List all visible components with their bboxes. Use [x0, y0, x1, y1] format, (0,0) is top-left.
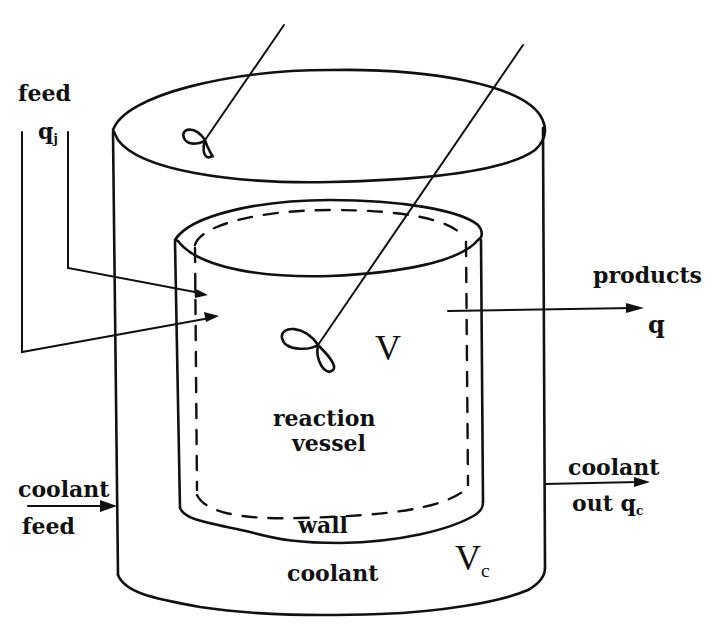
- vessel-wall-dashed-line: [195, 210, 468, 518]
- feed-inlet-arrows: [22, 132, 219, 352]
- coolant-out-label-line2: out qc: [572, 492, 643, 517]
- feed-flow-label: qj: [38, 120, 58, 145]
- coolant-out-flow-symbol: q: [621, 490, 636, 516]
- feed-flow-symbol: q: [38, 118, 53, 144]
- reactor-stirrer-icon: [282, 45, 523, 372]
- products-outlet-arrow: [448, 303, 644, 313]
- products-label: products: [593, 264, 702, 286]
- jacket-volume-subscript: c: [481, 559, 490, 581]
- jacket-coolant-label: coolant: [287, 562, 379, 584]
- coolant-feed-label-line1: coolant: [18, 478, 110, 500]
- jacket-stirrer-icon: [183, 25, 284, 157]
- feed-label: feed: [18, 82, 71, 104]
- coolant-out-text: out: [572, 490, 613, 516]
- reactor-diagram: [0, 0, 721, 629]
- coolant-out-label-line1: coolant: [568, 456, 660, 478]
- feed-flow-subscript: j: [53, 132, 57, 146]
- jacket-volume-symbol: V: [455, 538, 481, 578]
- wall-label: wall: [298, 514, 348, 536]
- coolant-out-flow-subscript: c: [636, 504, 643, 518]
- jacket-volume-label: Vc: [455, 540, 490, 581]
- coolant-feed-label-line2: feed: [22, 515, 75, 537]
- products-flow-label: q: [648, 313, 665, 337]
- reaction-vessel-label-line1: reaction: [273, 407, 375, 429]
- reactor-volume-label: V: [375, 330, 401, 366]
- reaction-vessel-label-line2: vessel: [292, 432, 366, 454]
